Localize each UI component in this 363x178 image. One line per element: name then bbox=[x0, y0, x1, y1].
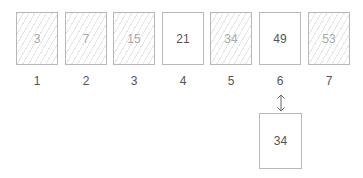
array-cell-7: 53 bbox=[308, 12, 350, 65]
array-cell-2: 7 bbox=[65, 12, 107, 65]
index-label-1: 1 bbox=[16, 74, 58, 88]
index-label-7: 7 bbox=[308, 74, 350, 88]
array-cell-6: 49 bbox=[259, 12, 301, 65]
array-cell-4: 21 bbox=[162, 12, 204, 65]
array-cell-5: 34 bbox=[210, 12, 252, 65]
index-label-3: 3 bbox=[113, 74, 155, 88]
index-label-6: 6 bbox=[259, 74, 301, 88]
target-value-box: 34 bbox=[259, 113, 302, 169]
index-label-2: 2 bbox=[65, 74, 107, 88]
array-cell-1: 3 bbox=[16, 12, 58, 65]
index-label-4: 4 bbox=[162, 74, 204, 88]
index-label-5: 5 bbox=[210, 74, 252, 88]
array-cell-3: 15 bbox=[113, 12, 155, 65]
up-down-arrow-icon bbox=[274, 94, 288, 112]
